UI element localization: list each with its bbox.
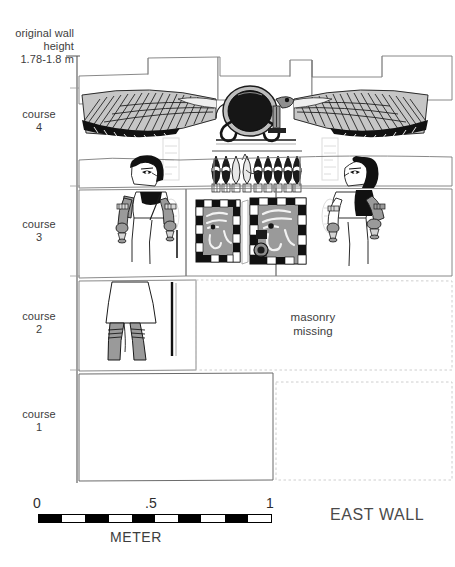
wadjet-eye-right: [250, 198, 306, 264]
elevation-axis: [66, 56, 80, 483]
wing-left-icon: [82, 90, 216, 140]
course-1-blocks: [79, 373, 273, 481]
course-1-missing-area: [276, 382, 452, 480]
wall-elevation-drawing: [0, 0, 455, 567]
eye-panel-gap-fragment: [242, 200, 248, 264]
figure-lower-body: [106, 282, 176, 360]
winged-sun-disk: [82, 86, 428, 144]
figure-right-torso: [327, 190, 385, 266]
figure-canvas: original wall height 1.78-1.8 m course 4…: [0, 0, 455, 567]
offering-vessel-right: [166, 231, 174, 241]
offering-vessel-left: [118, 233, 126, 243]
offering-vessel-far-right: [370, 229, 379, 239]
wing-right-icon: [294, 90, 428, 140]
course-2-missing-area: [196, 280, 452, 370]
offering-vessel-right-figure: [329, 232, 337, 242]
figure-left-torso: [116, 192, 176, 264]
wadjet-eye-left: [196, 200, 240, 262]
